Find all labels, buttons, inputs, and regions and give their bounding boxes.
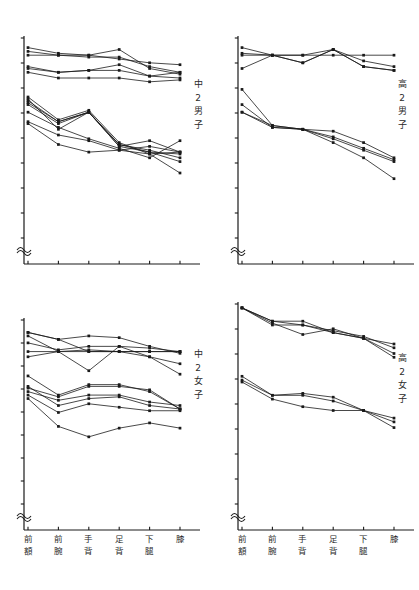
data-point-marker: [27, 394, 30, 397]
data-point-marker: [301, 54, 304, 57]
data-point-marker: [57, 54, 60, 57]
x-tick-label-forehead: 前額: [22, 534, 35, 557]
data-point-marker: [57, 350, 60, 353]
data-point-marker: [57, 338, 60, 341]
x-tick-label-hand-dorsum: 手背: [82, 534, 95, 557]
plot-area-junior-high-2-girls: [0, 0, 419, 590]
data-point-marker: [241, 375, 244, 378]
data-point-marker: [118, 394, 121, 397]
data-point-marker: [87, 69, 90, 72]
series-line-upper-a: [242, 308, 394, 348]
data-point-marker: [118, 63, 121, 66]
group-label-char: 女: [190, 375, 206, 389]
series-line-upper-c: [28, 55, 180, 64]
data-point-marker: [362, 54, 365, 57]
figure-root: 中2男子高2男子中2女子高2女子前額前腕手背足背下腿膝前額前腕手背足背下腿膝: [0, 0, 419, 590]
series-line-upper-d: [28, 65, 180, 78]
data-point-marker: [27, 390, 30, 393]
data-point-marker: [148, 153, 151, 156]
data-point-marker: [241, 307, 244, 310]
data-point-marker: [118, 58, 121, 61]
series-line-lower-f: [28, 122, 180, 154]
group-label-junior-high-2-boys: 中2男子: [190, 78, 206, 132]
data-point-marker: [87, 137, 90, 140]
x-tick-label-char: 手: [296, 534, 309, 546]
data-point-marker: [179, 160, 182, 163]
data-point-marker: [148, 401, 151, 404]
series-line-upper-c: [242, 308, 394, 344]
data-point-marker: [118, 149, 121, 152]
group-label-char: 子: [190, 389, 206, 403]
x-tick-label-char: 足: [327, 534, 340, 546]
x-tick-label-knee: 膝: [388, 534, 401, 546]
group-label-char: 子: [394, 119, 410, 133]
data-point-marker: [87, 111, 90, 114]
group-label-char: 子: [190, 119, 206, 133]
data-point-marker: [301, 54, 304, 57]
data-point-marker: [57, 143, 60, 146]
data-point-marker: [118, 350, 121, 353]
x-tick-label-lower-leg: 下腿: [143, 534, 156, 557]
data-point-marker: [118, 143, 121, 146]
data-point-marker: [241, 54, 244, 57]
series-line-lower-c: [28, 392, 180, 406]
group-label-char: 高: [394, 352, 410, 366]
series-line-upper-a: [242, 48, 394, 67]
axis-break-symbol: [231, 248, 245, 253]
data-point-marker: [362, 65, 365, 68]
data-point-marker: [118, 383, 121, 386]
data-point-marker: [271, 324, 274, 327]
data-point-marker: [87, 77, 90, 80]
data-point-marker: [148, 139, 151, 142]
data-point-marker: [148, 409, 151, 412]
data-point-marker: [179, 79, 182, 82]
data-point-marker: [332, 327, 335, 330]
data-point-marker: [27, 120, 30, 123]
data-point-marker: [27, 101, 30, 104]
data-point-marker: [271, 124, 274, 127]
series-line-lower-c: [28, 103, 180, 158]
data-point-marker: [179, 373, 182, 376]
group-label-high-school-2-boys: 高2男子: [394, 78, 410, 132]
data-point-marker: [241, 111, 244, 114]
series-line-lower-c: [242, 112, 394, 161]
data-point-marker: [332, 54, 335, 57]
data-point-marker: [57, 350, 60, 353]
data-point-marker: [27, 65, 30, 68]
data-point-marker: [271, 124, 274, 127]
data-point-marker: [118, 145, 121, 148]
data-point-marker: [27, 335, 30, 338]
data-point-marker: [301, 324, 304, 327]
data-point-marker: [148, 350, 151, 353]
data-point-marker: [57, 134, 60, 137]
plot-area-high-school-2-boys: [0, 0, 419, 590]
x-tick-label-forehead: 前額: [236, 534, 249, 557]
data-point-marker: [118, 345, 121, 348]
data-point-marker: [27, 99, 30, 102]
x-tick-label-char: 膝: [388, 534, 401, 546]
data-point-marker: [332, 130, 335, 133]
data-point-marker: [301, 324, 304, 327]
group-label-char: 2: [394, 366, 410, 380]
x-tick-label-char: 下: [357, 534, 370, 546]
data-point-marker: [301, 61, 304, 64]
data-point-marker: [87, 69, 90, 72]
data-point-marker: [87, 383, 90, 386]
data-point-marker: [362, 335, 365, 338]
data-point-marker: [118, 149, 121, 152]
data-point-marker: [179, 172, 182, 175]
data-point-marker: [179, 153, 182, 156]
x-tick-label-char: 額: [22, 546, 35, 558]
data-point-marker: [301, 61, 304, 64]
data-point-marker: [148, 347, 151, 350]
data-point-marker: [27, 67, 30, 70]
x-tick-label-char: 膝: [174, 534, 187, 546]
data-point-marker: [148, 390, 151, 393]
data-point-marker: [118, 77, 121, 80]
data-point-marker: [241, 307, 244, 310]
data-point-marker: [118, 385, 121, 388]
data-point-marker: [118, 345, 121, 348]
series-line-upper-f: [28, 350, 180, 364]
data-point-marker: [27, 387, 30, 390]
data-point-marker: [362, 337, 365, 340]
